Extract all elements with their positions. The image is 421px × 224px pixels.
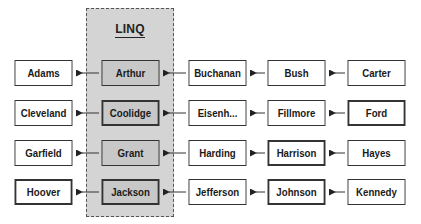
node-box: Eisenh... [189,100,247,126]
node-box: Adams [15,60,73,86]
node-box: Hoover [15,179,73,205]
node-box: Coolidge [102,100,160,126]
node-box: Hayes [348,140,406,166]
node-box: Arthur [102,60,160,86]
node-box: Ford [348,100,406,126]
node-box: Kennedy [348,179,406,205]
node-box: Jefferson [189,179,247,205]
node-box: Harding [189,140,247,166]
node-box: Johnson [268,179,326,205]
node-box: Garfield [15,140,73,166]
node-box: Carter [348,60,406,86]
node-box: Harrison [268,140,326,166]
node-box: Fillmore [268,100,326,126]
node-box: Bush [268,60,326,86]
node-box: Buchanan [189,60,247,86]
node-box: Cleveland [15,100,73,126]
node-box: Grant [102,140,160,166]
node-box: Jackson [102,179,160,205]
